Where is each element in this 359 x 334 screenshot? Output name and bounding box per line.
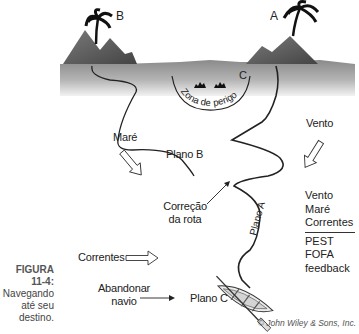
course-correction-label: Correção da rota [162, 200, 208, 226]
abandon-line1: Abandonar [96, 282, 152, 295]
currents-arrow-icon [126, 251, 158, 265]
legend-item: Correntes [305, 216, 357, 230]
legend: Vento Maré Correntes PEST FOFA feedback [305, 189, 357, 275]
tide-arrow-icon [117, 148, 147, 180]
wind-label: Vento [306, 117, 333, 130]
island-a-label: A [270, 10, 278, 23]
currents-label: Correntes [78, 251, 125, 264]
figure-number: FIGURA 11-4: [0, 264, 54, 288]
island-b-icon [63, 10, 137, 64]
caption-line: até seu [0, 300, 54, 312]
copyright-credit: © John Wiley & Sons, Inc. [258, 318, 356, 328]
legend-item: feedback [305, 262, 357, 276]
caption-line: destino. [0, 312, 54, 324]
caption-line: Navegando [0, 288, 54, 300]
plan-b-label: Plano B [166, 148, 203, 161]
wind-arrow-icon [299, 138, 327, 171]
tide-label: Maré [113, 131, 137, 144]
abandon-line2: navio [96, 295, 152, 308]
legend-item: Vento [305, 189, 357, 203]
abandon-ship-label: Abandonar navio [96, 282, 152, 308]
course-correction-line2: da rota [162, 213, 208, 226]
island-b-label: B [116, 10, 124, 23]
island-a-icon [246, 2, 318, 64]
legend-item: PEST [305, 235, 357, 249]
figure-caption: FIGURA 11-4: Navegando até seu destino. [0, 264, 54, 324]
plan-c-label: Plano C [190, 292, 228, 305]
legend-divider [305, 232, 355, 233]
island-c-label: C [239, 69, 247, 82]
course-correction-arrow [207, 183, 228, 204]
course-correction-line1: Correção [162, 200, 208, 213]
legend-item: FOFA [305, 248, 357, 262]
plan-a-label: Plano A [247, 200, 267, 236]
legend-item: Maré [305, 203, 357, 217]
